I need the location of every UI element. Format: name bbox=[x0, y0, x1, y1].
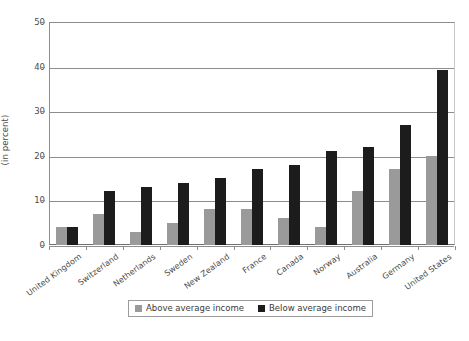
bar bbox=[178, 183, 189, 245]
x-tick-mark bbox=[307, 246, 308, 250]
x-tick-mark bbox=[381, 246, 382, 250]
y-tick-mark bbox=[41, 22, 45, 23]
y-tick-mark bbox=[41, 156, 45, 157]
bar-group bbox=[234, 22, 271, 245]
y-tick-label: 0 bbox=[3, 240, 45, 250]
legend-label: Above average income bbox=[146, 303, 244, 313]
x-tick-mark bbox=[123, 246, 124, 250]
bar-group bbox=[418, 22, 455, 245]
bar-group bbox=[86, 22, 123, 245]
y-tick-mark bbox=[41, 200, 45, 201]
grouped-bar-chart: (in percent) 01020304050 United KingdomS… bbox=[0, 0, 469, 341]
x-tick-mark bbox=[270, 246, 271, 250]
legend-entry: Above average income bbox=[135, 303, 244, 313]
bar bbox=[67, 227, 78, 245]
x-tick-mark bbox=[160, 246, 161, 250]
chart-legend: Above average incomeBelow average income bbox=[128, 300, 373, 317]
y-tick-label: 40 bbox=[3, 62, 45, 72]
bar-group bbox=[123, 22, 160, 245]
bar bbox=[93, 214, 104, 245]
bar bbox=[289, 165, 300, 245]
x-tick-mark bbox=[455, 246, 456, 250]
bar bbox=[326, 151, 337, 245]
y-tick-label: 20 bbox=[3, 151, 45, 161]
bar bbox=[241, 209, 252, 245]
y-tick-mark bbox=[41, 245, 45, 246]
y-tick-label: 50 bbox=[3, 17, 45, 27]
bar-group bbox=[160, 22, 197, 245]
legend-swatch-icon bbox=[135, 305, 142, 312]
x-tick-mark bbox=[418, 246, 419, 250]
bar-group bbox=[197, 22, 234, 245]
bar-group bbox=[307, 22, 344, 245]
bar-group bbox=[270, 22, 307, 245]
x-tick-mark bbox=[86, 246, 87, 250]
bar bbox=[204, 209, 215, 245]
bars-layer bbox=[49, 22, 455, 245]
x-tick-mark bbox=[234, 246, 235, 250]
y-tick-mark bbox=[41, 111, 45, 112]
legend-entry: Below average income bbox=[258, 303, 366, 313]
bar bbox=[141, 187, 152, 245]
y-tick-label: 10 bbox=[3, 195, 45, 205]
bar bbox=[167, 223, 178, 245]
x-tick-mark bbox=[197, 246, 198, 250]
y-tick-mark bbox=[41, 67, 45, 68]
legend-swatch-icon bbox=[258, 305, 265, 312]
bar bbox=[363, 147, 374, 245]
y-tick-label: 30 bbox=[3, 106, 45, 116]
x-tick-mark bbox=[344, 246, 345, 250]
bar bbox=[389, 169, 400, 245]
bar bbox=[437, 70, 448, 245]
bar bbox=[352, 191, 363, 245]
bar-group bbox=[381, 22, 418, 245]
bar bbox=[56, 227, 67, 245]
bar bbox=[315, 227, 326, 245]
bar bbox=[426, 156, 437, 245]
bar bbox=[400, 125, 411, 245]
bar bbox=[252, 169, 263, 245]
bar bbox=[104, 191, 115, 245]
y-axis-ticks: 01020304050 bbox=[0, 22, 45, 245]
x-tick-mark bbox=[49, 246, 50, 250]
bar-group bbox=[344, 22, 381, 245]
bar bbox=[278, 218, 289, 245]
bar bbox=[215, 178, 226, 245]
bar-group bbox=[49, 22, 86, 245]
x-axis-labels: United KingdomSwitzerlandNetherlandsSwed… bbox=[49, 246, 455, 302]
bar bbox=[130, 232, 141, 245]
legend-label: Below average income bbox=[269, 303, 366, 313]
